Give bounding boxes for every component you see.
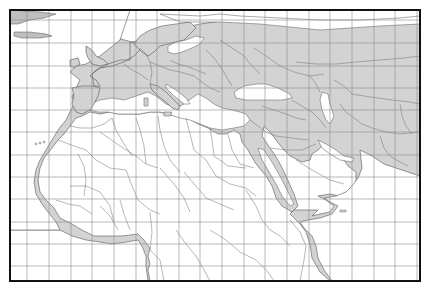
land-socotra (340, 210, 346, 212)
land-sardinia (144, 98, 148, 106)
map-canvas (0, 0, 429, 289)
